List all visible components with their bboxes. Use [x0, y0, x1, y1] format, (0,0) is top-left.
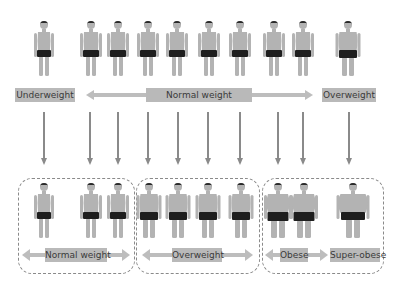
top-person-figure-icon — [328, 20, 368, 82]
top-person-figure-icon — [283, 20, 323, 82]
label-group-normal-weight: Normal weight — [45, 248, 107, 262]
label-overweight: Overweight — [322, 88, 376, 102]
label-group-obese: Obese — [280, 248, 308, 262]
label-underweight: Underweight — [15, 88, 75, 102]
label-group-super-obese: Super-obese — [330, 248, 380, 262]
bottom-person-figure-icon — [284, 182, 324, 244]
top-person-figure-icon — [24, 20, 64, 82]
bottom-person-figure-icon — [333, 182, 373, 244]
label-group-overweight: Overweight — [172, 248, 222, 262]
label-normal-weight: Normal weight — [146, 88, 252, 102]
bottom-person-figure-icon — [221, 182, 261, 244]
bottom-person-figure-icon — [24, 182, 64, 244]
